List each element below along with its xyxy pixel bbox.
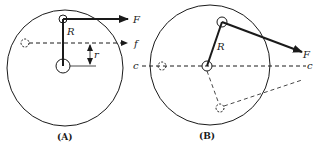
label-centerline-left-b: c: [133, 60, 139, 71]
caption-a: (A): [57, 132, 73, 142]
wheel-circle-b: [150, 5, 270, 125]
panel-b: F R c c (B): [133, 5, 313, 141]
panel-a: F f R r (A): [7, 10, 141, 142]
wheel-circle-a: [7, 10, 123, 126]
label-centerline-right-b: c: [307, 60, 313, 71]
label-force-b: F: [302, 49, 311, 60]
label-offset-a: r: [94, 49, 100, 60]
label-radius-a: R: [66, 26, 75, 37]
caption-b: (B): [199, 131, 215, 141]
diagram-canvas: F f R r (A) F R c c (B): [0, 0, 316, 147]
label-radius-b: R: [216, 41, 225, 52]
label-force-a: F: [132, 14, 141, 25]
construction-arm-b: [207, 71, 219, 104]
ghost-pin-lower-b: [216, 104, 224, 112]
label-friction-a: f: [133, 38, 140, 49]
ghost-pin-a: [21, 39, 29, 47]
force-arrow-b: [222, 22, 302, 52]
